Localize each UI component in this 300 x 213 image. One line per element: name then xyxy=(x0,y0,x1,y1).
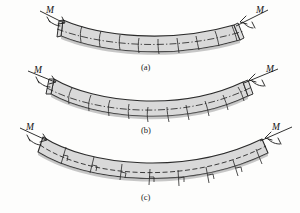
moment-curl-c-left xyxy=(29,139,41,145)
moment-label-a-right: M xyxy=(255,5,265,15)
moment-curl-tick-b-left xyxy=(36,77,39,83)
moment-curl-tick-c-right xyxy=(278,138,281,144)
bending-figure: M M (a) xyxy=(0,0,300,213)
beam-bending-diagram: M M (a) xyxy=(0,0,300,213)
moment-curl-tick-c-left xyxy=(27,135,30,141)
moment-label-b-right: M xyxy=(265,64,275,74)
panel-b: M M (b) xyxy=(28,64,278,135)
panel-a: M M (a) xyxy=(40,5,268,72)
caption-b: (b) xyxy=(141,125,151,135)
caption-c: (c) xyxy=(141,192,151,202)
moment-curl-tick-a-right xyxy=(252,22,255,28)
moment-label-a-left: M xyxy=(45,5,55,15)
caption-a: (a) xyxy=(141,62,151,72)
moment-label-b-left: M xyxy=(33,65,43,75)
beam-body-c xyxy=(38,137,268,179)
moment-label-c-right: M xyxy=(271,122,281,132)
moment-label-c-left: M xyxy=(25,122,35,132)
beam-body-b xyxy=(51,79,248,116)
right-angle-mark-c-6 xyxy=(208,174,214,179)
panel-c: M M (c) xyxy=(20,122,292,202)
moment-curl-tick-b-right xyxy=(262,80,265,86)
moment-curl-tick-a-left xyxy=(47,17,50,22)
